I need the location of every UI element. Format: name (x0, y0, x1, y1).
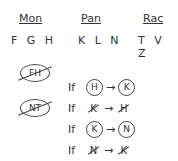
rule-from: K (86, 121, 103, 138)
rule-prefix: If (68, 144, 86, 157)
rule-prefix: If (68, 81, 86, 94)
arrow-icon: → (106, 81, 115, 94)
arrow-icon: → (106, 123, 115, 136)
rule-to: H (116, 101, 131, 116)
excluded-pair: FH (20, 64, 50, 82)
arrow-icon: → (104, 102, 113, 115)
rule-from: N (86, 143, 101, 158)
group-header-pan: Pan (81, 12, 101, 25)
excluded-pair: NT (20, 99, 50, 117)
rule: If K → N (68, 119, 135, 139)
group-members-mon: F G H (11, 34, 56, 47)
group-header-rac: Rac (143, 12, 163, 25)
rule: If N → K (68, 140, 131, 160)
rule-from: K (86, 101, 101, 116)
rule-from: H (86, 79, 103, 96)
group-members-rac: T V Z (138, 34, 178, 60)
rule-prefix: If (68, 123, 86, 136)
rule-to: K (118, 79, 135, 96)
rule: If H → K (68, 77, 135, 97)
group-header-mon: Mon (19, 12, 42, 25)
rule-to: N (118, 121, 135, 138)
rule: If K → H (68, 98, 131, 118)
arrow-icon: → (104, 144, 113, 157)
rule-to: K (116, 143, 131, 158)
rule-prefix: If (68, 102, 86, 115)
group-members-pan: K L N (78, 34, 122, 47)
